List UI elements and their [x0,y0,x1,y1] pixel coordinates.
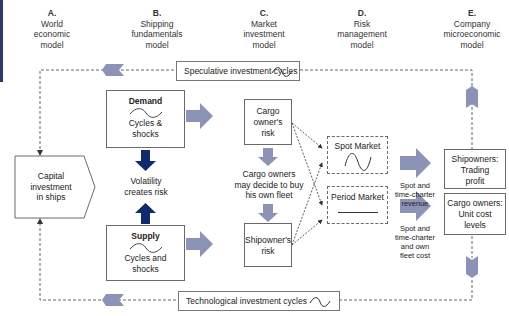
cargo-cost-line: levels [445,220,505,231]
spot-market-box: Spot Market [327,136,388,174]
cargo-risk-line: Cargo [245,106,291,117]
connector-layer [0,0,509,316]
volatility-line: Volatility [115,176,177,187]
cargo-risk-line: owner's [245,117,291,128]
supply-line: shocks [107,264,184,275]
supply-title: Supply [107,231,184,242]
shipowner-to-period-connector [292,220,322,245]
cargo-decide-line: his own fleet [229,190,309,201]
cargo-risk-line: risk [245,128,291,139]
shipowner-risk-line: Shipowner's [245,235,291,246]
shipowners-profit-line: profit [445,176,505,187]
shipowner-risk-line: risk [245,246,291,257]
volatility-line: creates risk [115,187,177,198]
shipowner-risk-box: Shipowner's risk [244,223,292,267]
demand-title: Demand [107,96,184,107]
cargo-owner-risk-box: Cargo owner's risk [244,99,292,145]
cost-line: Spot and [388,224,442,233]
flat-line-icon [338,212,378,213]
cargo-decide-line: may decide to buy [229,180,309,191]
demand-line: Cycles & [107,118,184,129]
sine-wave-icon [309,297,331,307]
speculative-loop-arrow-icon [102,64,124,76]
volatility-label: Volatility creates risk [115,176,177,197]
cargo-cost-line: Unit cost [445,209,505,220]
sine-wave-icon [343,153,373,171]
shipowners-profit-box: Shipowners: Trading profit [444,149,506,189]
supply-line: Cycles and [107,253,184,264]
capital-line: investment [16,182,86,193]
capital-investment-label: Capital investment in ships [16,171,86,203]
decide-to-shipowner-arrow-icon [258,204,278,222]
cost-line: time-charter [388,233,442,242]
revenue-label: Spot and time-charter revenue [388,181,442,208]
revenue-line: time-charter [388,190,442,199]
revenue-line: revenue [388,199,442,208]
cargo-owners-cost-box: Cargo owners: Unit cost levels [444,193,506,235]
demand-line: shocks [107,129,184,140]
supply-to-shipowner-arrow-icon [186,231,213,257]
sine-wave-icon [271,67,293,77]
capital-line: Capital [16,171,86,182]
speculative-cycles-box: Speculative investment cycles [176,61,300,81]
cost-line: fleet cost [388,251,442,260]
cost-label: Spot and time-charter and own fleet cost [388,224,442,260]
demand-volatility-arrow-icon [135,150,156,171]
technological-cycles-box: Technological investment cycles [178,291,340,311]
cargo-decide-line: Cargo owners [229,169,309,180]
sine-wave-icon [129,108,163,118]
period-market-label: Period Market [328,192,387,203]
shipowners-profit-line: Trading [445,165,505,176]
cargo-owners-decide-label: Cargo owners may decide to buy his own f… [229,169,309,201]
capital-line: in ships [16,192,86,203]
shipowners-profit-line: Shipowners: [445,154,505,165]
cargo-to-decide-arrow-icon [258,148,278,166]
supply-box: Supply Cycles and shocks [106,225,185,281]
supply-volatility-arrow-icon [135,203,156,224]
cargo-to-spot-connector [292,123,322,148]
period-market-box: Period Market [327,186,388,224]
sine-wave-icon [129,243,163,253]
revenue-line: Spot and [388,181,442,190]
cargo-cost-line: Cargo owners: [445,198,505,209]
arrowhead-to-capital-top [37,150,43,156]
revenue-arrow-icon [400,148,431,178]
cost-down-arrow-icon [466,256,478,278]
cost-line: and own [388,242,442,251]
technological-cycles-label: Technological investment cycles [186,296,307,306]
arrowhead-to-capital-bottom [37,218,43,224]
spot-market-label: Spot Market [328,141,387,152]
demand-box: Demand Cycles & shocks [106,90,185,148]
demand-to-cargo-arrow-icon [186,103,213,129]
